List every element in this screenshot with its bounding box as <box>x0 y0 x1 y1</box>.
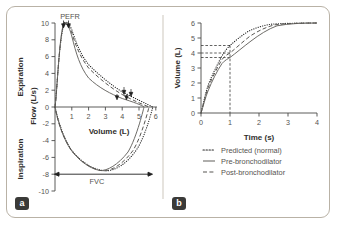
pefr-label: PEFR <box>60 12 80 21</box>
panel-a-ytick-neg10: -10 <box>39 187 49 196</box>
panel-a-ytick-4: 4 <box>45 69 49 78</box>
panel-a-ytick-8: 8 <box>45 35 49 44</box>
panel-a-ytick-neg4: -4 <box>43 136 49 145</box>
panel-b-ytick-4: 4 <box>191 49 195 58</box>
panel-b-ytick-1: 1 <box>191 94 195 103</box>
panel-a-xtick-4: 4 <box>120 112 124 121</box>
panel-b-ytick-5: 5 <box>191 34 195 43</box>
panel-a-y-ticklabels: 10 8 6 4 2 0 -2 -4 -6 -8 -10 <box>39 19 49 196</box>
panel-a-ytick-0: 0 <box>45 103 49 112</box>
panel-b-reference-lines <box>201 46 230 114</box>
panel-b-y-axis-title: Volume (L) <box>173 47 182 88</box>
panel-b-curve-predicted <box>201 23 317 113</box>
panel-a-x-axis-title: Volume (L) <box>89 127 130 136</box>
panel-a-xtick-3: 3 <box>103 112 107 121</box>
panel-a-xtick-6: 6 <box>154 112 158 121</box>
panel-b-x-ticks <box>201 113 317 117</box>
flow-volume-loop-chart: 10 8 6 4 2 0 -2 -4 -6 -8 -10 1 2 3 4 5 <box>7 9 167 209</box>
panel-b-ytick-3: 3 <box>191 64 195 73</box>
panel-a-curve-pre <box>55 23 144 170</box>
panel-a-expiration-label: Expiration <box>16 57 25 96</box>
fvc-arrow <box>55 172 153 176</box>
panel-b-xtick-4: 4 <box>315 118 319 127</box>
figure-frame: 10 8 6 4 2 0 -2 -4 -6 -8 -10 1 2 3 4 5 <box>6 6 330 218</box>
panel-a-ytick-neg8: -8 <box>43 170 49 179</box>
panel-a-xtick-1: 1 <box>70 112 74 121</box>
panel-a-ytick-2: 2 <box>45 86 49 95</box>
flow-reduction-arrows <box>115 87 133 100</box>
panel-a-xtick-2: 2 <box>87 112 91 121</box>
panel-b-x-axis-title: Time (s) <box>244 133 275 142</box>
panel-a-inspiration-label: Inspiration <box>16 138 25 179</box>
volume-time-chart: 6 5 4 3 2 1 0 0 1 2 3 4 Volume (L) Time … <box>165 9 329 209</box>
panel-b-y-ticks <box>198 23 202 113</box>
panel-a-ytick-neg6: -6 <box>43 153 49 162</box>
panel-a-ytick-6: 6 <box>45 52 49 61</box>
legend-label-post: Post-bronchodilator <box>221 168 286 177</box>
panel-b-xtick-1: 1 <box>228 118 232 127</box>
panel-b-xtick-0: 0 <box>199 118 203 127</box>
panel-b-curve-pre <box>201 23 317 113</box>
panel-a-ytick-neg2: -2 <box>43 119 49 128</box>
panel-badge-b: b <box>172 197 186 210</box>
panel-a-curve-post <box>55 23 149 171</box>
panel-b-xtick-2: 2 <box>257 118 261 127</box>
panel-a-ytick-10: 10 <box>41 19 49 28</box>
panel-b-curve-post <box>201 23 317 113</box>
panel-b-ytick-2: 2 <box>191 79 195 88</box>
panel-b-ytick-6: 6 <box>191 19 195 28</box>
panel-b-ytick-0: 0 <box>191 109 195 118</box>
legend-label-pre: Pre-bronchodilator <box>221 157 282 166</box>
legend-label-predicted: Predicted (normal) <box>221 146 282 155</box>
panel-a-x-ticklabels: 1 2 3 4 5 6 <box>70 112 158 121</box>
panel-b-xtick-3: 3 <box>286 118 290 127</box>
panel-b-x-ticklabels: 0 1 2 3 4 <box>199 118 319 127</box>
legend: Predicted (normal) Pre-bronchodilator Po… <box>203 146 286 177</box>
panel-a-y-axis-title: Flow (L/s) <box>29 87 38 125</box>
fvc-label: FVC <box>90 177 105 186</box>
panel-badge-a: a <box>15 197 29 210</box>
panel-b-y-ticklabels: 6 5 4 3 2 1 0 <box>191 19 195 118</box>
